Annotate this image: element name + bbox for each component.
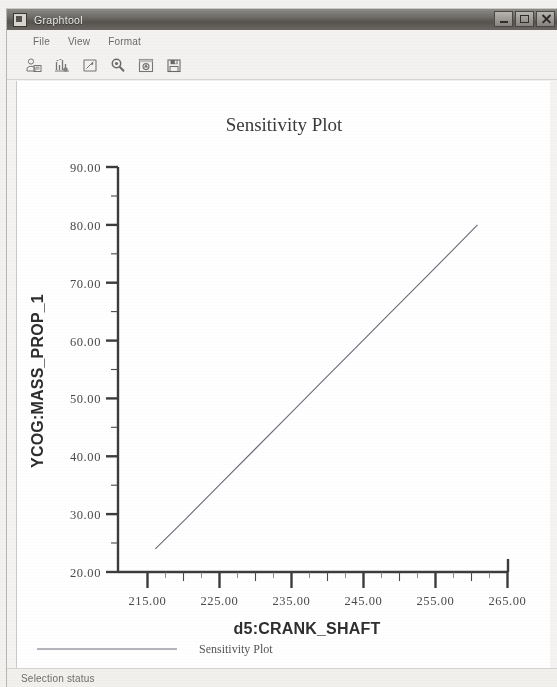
x-axis-title: d5:CRANK_SHAFT — [234, 620, 381, 637]
y-tick-label: 30.00 — [70, 508, 101, 522]
application-window: Graphtool File View Format — [0, 0, 557, 687]
y-tick-label: 80.00 — [70, 219, 101, 233]
save-icon — [165, 57, 183, 74]
maximize-icon — [520, 15, 529, 23]
save-button[interactable] — [163, 56, 185, 76]
status-bar: Selection status — [7, 668, 557, 687]
x-tick-label: 235.00 — [273, 594, 311, 608]
chart-title: Sensitivity Plot — [226, 114, 343, 135]
sensitivity-plot-figure: Sensitivity Plot YCOG:MASS_PROP_1 d5:CRA… — [17, 81, 550, 669]
window-title: Graphtool — [34, 14, 83, 26]
x-tick-label: 265.00 — [489, 594, 527, 608]
close-button[interactable] — [536, 11, 555, 27]
snapshot-button[interactable] — [135, 56, 157, 76]
y-axis-labels: 90.00 80.00 70.00 60.00 50.00 40.00 30.0… — [70, 161, 101, 580]
x-tick-label: 225.00 — [201, 594, 239, 608]
menu-bar: File View Format — [7, 30, 557, 52]
toolbar — [7, 52, 557, 79]
zoom-button[interactable] — [107, 56, 129, 76]
page-button[interactable] — [79, 56, 101, 76]
x-axis-labels: 215.00 225.00 235.00 245.00 255.00 265.0… — [129, 594, 527, 608]
page-icon — [81, 57, 99, 74]
menu-item-view[interactable]: View — [68, 36, 90, 47]
x-tick-label: 255.00 — [417, 594, 455, 608]
y-tick-label: 60.00 — [70, 335, 101, 349]
graphtool-window: Graphtool File View Format — [6, 8, 557, 687]
data-series-line — [155, 225, 477, 549]
menu-item-file[interactable]: File — [33, 36, 50, 47]
window-controls — [494, 11, 555, 27]
zoom-icon — [109, 57, 127, 74]
print-preview-button[interactable] — [23, 56, 45, 76]
plot-canvas[interactable]: Sensitivity Plot YCOG:MASS_PROP_1 d5:CRA… — [16, 81, 550, 669]
x-tick-label: 215.00 — [129, 594, 167, 608]
minimize-button[interactable] — [494, 11, 513, 27]
axis-lines — [118, 167, 508, 572]
maximize-button[interactable] — [515, 11, 534, 27]
snapshot-icon — [137, 57, 155, 74]
legend: Sensitivity Plot — [37, 642, 273, 656]
y-tick-label: 50.00 — [70, 392, 101, 406]
y-tick-label: 90.00 — [70, 161, 101, 175]
x-tick-label: 245.00 — [345, 594, 383, 608]
y-tick-label: 70.00 — [70, 277, 101, 291]
status-text: Selection status — [21, 673, 95, 684]
y-tick-label: 40.00 — [70, 450, 101, 464]
chart-settings-button[interactable] — [51, 56, 73, 76]
x-axis-ticks — [148, 572, 508, 588]
y-axis-ticks — [106, 167, 118, 572]
legend-label: Sensitivity Plot — [199, 642, 273, 656]
y-axis-title: YCOG:MASS_PROP_1 — [29, 294, 46, 468]
minimize-icon — [500, 21, 508, 23]
toolbar-separator — [7, 79, 557, 80]
print-preview-icon — [25, 57, 43, 74]
close-icon — [541, 14, 551, 24]
app-icon — [13, 13, 27, 27]
title-bar[interactable]: Graphtool — [7, 9, 557, 30]
chart-settings-icon — [53, 57, 71, 74]
y-tick-label: 20.00 — [70, 566, 101, 580]
menu-item-format[interactable]: Format — [108, 36, 141, 47]
